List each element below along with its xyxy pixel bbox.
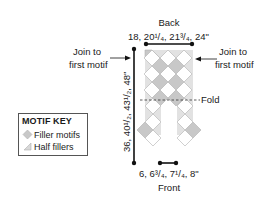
join-left-line2: first motif (69, 59, 108, 70)
front-width-label: 6, 6³/₄, 7¹/₄, 8" (139, 168, 199, 179)
join-left-line1: Join to (73, 46, 101, 57)
motif-key-title: MOTIF KEY (22, 116, 72, 126)
back-label: Back (150, 17, 188, 28)
front-width-bar (158, 161, 178, 165)
join-right-line2: first motif (215, 59, 254, 70)
length-bar (132, 47, 136, 165)
key-item-half: Half fillers (22, 141, 74, 152)
half-triangle-icon (22, 141, 33, 152)
front-label: Front (150, 182, 188, 193)
key-item-filler: Filler motifs (22, 129, 80, 140)
length-label: 36, 40¹/₂, 43¹/₂, 48" (121, 72, 132, 152)
arrow-left-icon (195, 57, 217, 62)
motif-key: MOTIF KEY Filler motifs Half fillers (18, 113, 88, 156)
arrow-right-icon (110, 56, 131, 61)
fold-label: Fold (201, 94, 219, 105)
join-right-line1: Join to (219, 46, 247, 57)
back-width-label: 18, 20¹/₄, 21³/₄, 24" (128, 31, 209, 42)
key-item-label: Half fillers (34, 142, 74, 152)
diamond-icon (22, 129, 33, 140)
key-item-label: Filler motifs (34, 130, 80, 140)
back-width-bar (144, 42, 194, 46)
